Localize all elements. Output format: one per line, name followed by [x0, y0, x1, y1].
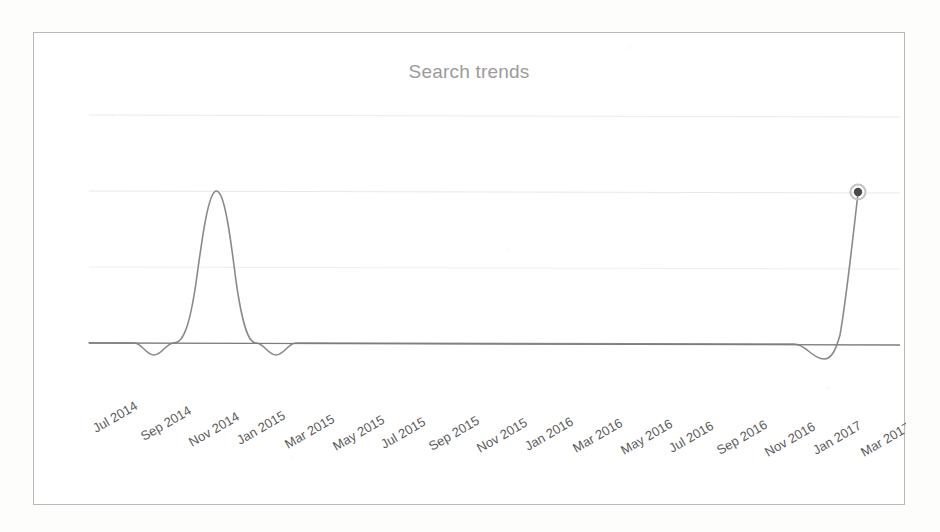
x-tick-label: Mar 2017 [858, 419, 906, 459]
endpoint-marker-dot[interactable] [854, 188, 862, 196]
x-tick-label: Jul 2016 [666, 418, 716, 456]
gridline-25 [89, 267, 900, 269]
x-tick-label: Jul 2014 [90, 398, 140, 436]
gridline-75 [89, 115, 900, 117]
gridlines [89, 115, 900, 269]
x-tick-label: Jul 2015 [378, 414, 428, 452]
x-tick-label: May 2015 [330, 412, 387, 454]
x-tick-label: Nov 2016 [762, 419, 818, 460]
x-tick-label: May 2016 [618, 416, 675, 458]
x-tick-label: Jan 2015 [234, 408, 288, 448]
x-axis-tick-labels: Jul 2014 Sep 2014 Nov 2014 Jan 2015 Mar … [90, 398, 906, 462]
x-tick-label: Sep 2015 [426, 413, 482, 454]
line-chart-plot[interactable]: Jul 2014 Sep 2014 Nov 2014 Jan 2015 Mar … [34, 33, 906, 506]
x-tick-label: Nov 2015 [474, 415, 530, 456]
data-series-search-interest [89, 185, 866, 360]
x-tick-label: Sep 2014 [138, 403, 194, 444]
x-tick-label: Sep 2016 [714, 417, 770, 458]
series-line [89, 191, 858, 359]
x-tick-label: Nov 2014 [186, 409, 242, 450]
x-tick-label: Mar 2015 [282, 411, 337, 451]
x-tick-label: Jan 2017 [810, 418, 864, 458]
x-tick-label: Mar 2016 [570, 415, 625, 455]
x-tick-label: Jan 2016 [522, 414, 576, 454]
gridline-50 [89, 191, 900, 193]
search-trends-chart-card: Search trends Jul 2014 Sep 2014 Nov 2014… [33, 32, 905, 505]
